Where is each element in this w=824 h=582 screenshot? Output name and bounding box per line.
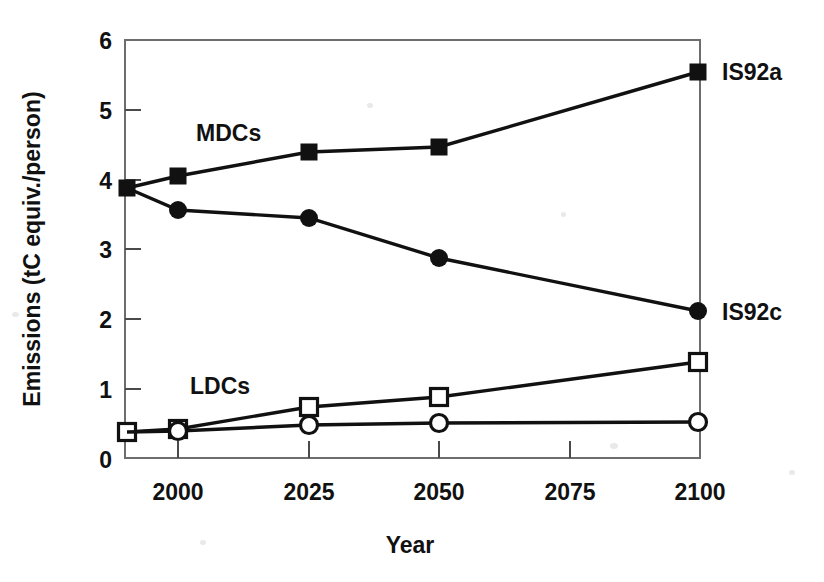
y-tick-label: 5: [99, 98, 112, 124]
data-point-marker: [690, 64, 707, 81]
x-tick-label: 2075: [544, 479, 595, 505]
data-point-marker: [170, 423, 187, 440]
chart-figure: 6 5 4 3 2 1 0 2000 2025 2050 2075 2100 Y…: [0, 0, 824, 582]
y-tick-label: 2: [99, 307, 112, 333]
y-tick-label: 3: [99, 237, 112, 263]
data-point-marker: [689, 302, 707, 320]
x-tick-label: 2000: [152, 479, 203, 505]
data-point-marker: [690, 414, 707, 431]
data-point-marker: [301, 399, 318, 416]
x-tick-label: 2100: [674, 479, 725, 505]
data-point-marker: [301, 144, 318, 161]
ldcs-group-label: LDCs: [190, 373, 250, 399]
mdcs-group-label: MDCs: [196, 120, 261, 146]
x-axis-title: Year: [386, 532, 435, 558]
x-tick-label: 2025: [283, 479, 334, 505]
x-tick-labels: 2000 2025 2050 2075 2100: [152, 479, 725, 505]
data-point-marker: [431, 415, 448, 432]
data-point-marker: [430, 249, 448, 267]
y-tick-labels: 6 5 4 3 2 1 0: [99, 28, 112, 473]
y-tick-label: 0: [99, 447, 112, 473]
x-tick-label: 2050: [413, 479, 464, 505]
y-tick-label: 6: [99, 28, 112, 54]
y-tick-label: 1: [99, 377, 112, 403]
data-point-marker: [301, 417, 318, 434]
data-point-marker: [170, 168, 187, 185]
y-tick-label: 4: [99, 168, 112, 194]
y-axis-title: Emissions (tC equiv./person): [19, 91, 45, 406]
emissions-line-chart: 6 5 4 3 2 1 0 2000 2025 2050 2075 2100 Y…: [0, 0, 824, 582]
is92c-end-label: IS92c: [722, 299, 782, 325]
data-point-marker: [690, 354, 707, 371]
data-point-marker: [431, 389, 448, 406]
is92a-end-label: IS92a: [722, 59, 782, 85]
data-point-marker: [300, 209, 318, 227]
data-point-marker: [431, 139, 448, 156]
data-point-marker: [169, 201, 187, 219]
